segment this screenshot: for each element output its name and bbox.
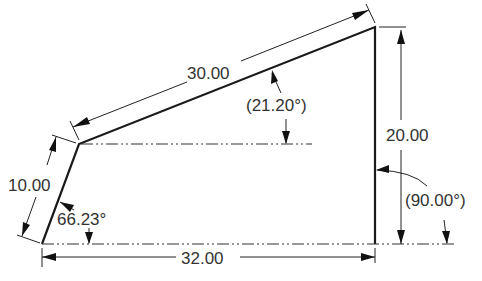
arrowhead-icon (442, 231, 450, 244)
arrowhead-icon (397, 230, 405, 244)
arrowhead-icon (397, 30, 405, 44)
leader-arc (377, 170, 427, 186)
extension-line (366, 4, 375, 23)
reference-lines (42, 144, 456, 244)
arrowhead-icon (49, 137, 56, 152)
left-angle-label: 66.23° (57, 210, 106, 229)
arrowhead-icon (42, 253, 56, 261)
arrowhead-icon (376, 165, 389, 173)
arrowhead-icon (282, 131, 290, 144)
arrowhead-icon (22, 222, 30, 236)
top-angle-label: (21.20°) (246, 96, 307, 115)
arrowhead-icon (271, 70, 278, 84)
arrowhead-icon (73, 117, 90, 127)
arrowhead-icon (352, 10, 369, 20)
right-angle-label: (90.00°) (405, 191, 466, 210)
arrowhead-icon (85, 232, 93, 244)
dimension-line (241, 10, 369, 61)
extension-line (17, 235, 40, 243)
right-height-label: 20.00 (386, 126, 429, 145)
arrowhead-icon (361, 253, 375, 261)
top-edge-length-label: 30.00 (187, 64, 230, 83)
bottom-length-label: 32.00 (181, 249, 224, 268)
left-edge-length-label: 10.00 (8, 176, 51, 195)
engineering-drawing: 30.00 (21.20°) 20.00 10.00 66.23° (90.00… (0, 0, 482, 281)
dimension-line (73, 82, 187, 127)
